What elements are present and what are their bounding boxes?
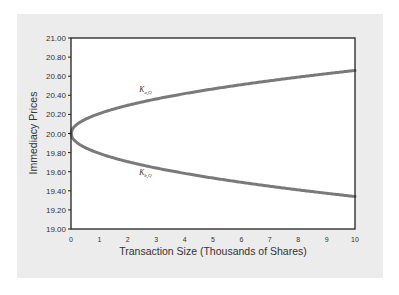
y-tick-label: 20.20 (46, 110, 67, 119)
y-tick-label: 19.40 (46, 187, 67, 196)
x-tick-label: 1 (97, 236, 101, 243)
x-tick-label: 10 (351, 236, 359, 243)
y-tick-label: 19.00 (46, 225, 67, 234)
y-tick-label: 21.00 (46, 34, 67, 43)
y-tick-label: 20.40 (46, 91, 67, 100)
y-tick-label: 20.80 (46, 53, 67, 62)
y-tick-label: 19.60 (46, 168, 67, 177)
y-tick-label: 20.00 (46, 130, 67, 139)
y-tick-label: 19.20 (46, 206, 67, 215)
x-tick-label: 5 (211, 236, 215, 243)
y-tick-label: 19.80 (46, 149, 67, 158)
x-tick-label: 0 (69, 236, 73, 243)
y-axis-ticks: 19.0019.2019.4019.6019.8020.0020.2020.40… (46, 34, 71, 234)
y-axis-title: Immediacy Prices (27, 92, 39, 175)
x-tick-label: 8 (296, 236, 300, 243)
x-tick-label: 7 (268, 236, 272, 243)
x-tick-label: 6 (239, 236, 243, 243)
x-tick-label: 3 (154, 236, 158, 243)
x-axis-ticks: 012345678910 (69, 236, 359, 243)
plot-area (71, 38, 355, 229)
x-tick-label: 9 (325, 236, 329, 243)
x-tick-label: 4 (183, 236, 187, 243)
y-tick-label: 20.60 (46, 72, 67, 81)
x-tick-label: 2 (126, 236, 130, 243)
x-axis-title: Transaction Size (Thousands of Shares) (119, 245, 307, 257)
line-chart: 19.0019.2019.4019.6019.8020.0020.2020.40… (0, 0, 399, 295)
